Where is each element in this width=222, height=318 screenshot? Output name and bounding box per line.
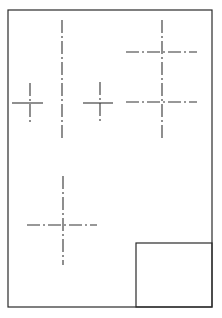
sheet-border	[8, 10, 212, 307]
right-centerline-group	[126, 20, 197, 140]
title-block	[136, 243, 212, 307]
middle-small-cross	[83, 82, 114, 122]
drawing-sheet	[0, 0, 222, 318]
left-small-cross	[12, 83, 44, 122]
bottom-cross	[27, 176, 97, 265]
